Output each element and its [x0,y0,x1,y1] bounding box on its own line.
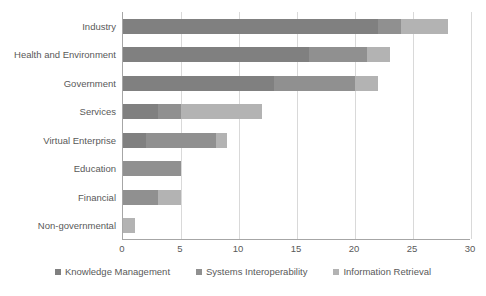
category-label: Industry [0,21,116,32]
stacked-bar-chart: IndustryHealth and EnvironmentGovernment… [0,0,486,296]
bar-segment [355,76,378,91]
bar-track [123,19,448,34]
bar-segment [123,76,274,91]
bar-segment [123,133,146,148]
bar-track [123,218,135,233]
value-tick-label: 20 [349,243,360,255]
plot-area [122,12,470,240]
bar-row [123,183,470,212]
bar-track [123,76,378,91]
bar-segment [378,19,401,34]
category-label: Non-governmental [0,220,116,231]
legend-item[interactable]: Knowledge Management [55,266,170,278]
category-label: Financial [0,192,116,203]
chart-legend: Knowledge ManagementSystems Interoperabi… [0,266,486,278]
bar-segment [123,19,378,34]
value-tick-label: 30 [465,243,476,255]
category-axis-labels: IndustryHealth and EnvironmentGovernment… [0,12,116,240]
bar-segment [123,218,135,233]
bar-track [123,133,227,148]
value-tick-label: 10 [233,243,244,255]
category-label: Virtual Enterprise [0,135,116,146]
bar-segment [309,47,367,62]
category-label: Health and Environment [0,49,116,60]
bar-row [123,69,470,98]
legend-label: Information Retrieval [343,266,431,278]
bar-segment [158,104,181,119]
value-tick-label: 5 [177,243,182,255]
legend-label: Knowledge Management [65,266,170,278]
bar-track [123,161,181,176]
bar-segment [216,133,228,148]
bar-segment [401,19,447,34]
bar-segment [367,47,390,62]
bar-series-group [123,12,470,239]
bar-row [123,98,470,127]
legend-swatch-icon [55,269,61,275]
bar-segment [123,47,309,62]
value-tick-label: 0 [119,243,124,255]
bar-segment [146,133,216,148]
legend-item[interactable]: Information Retrieval [333,266,431,278]
legend-item[interactable]: Systems Interoperability [196,266,307,278]
category-label: Services [0,106,116,117]
bar-row [123,126,470,155]
value-axis-labels: 051015202530 [122,243,470,257]
bar-track [123,190,181,205]
bar-segment [123,190,158,205]
legend-swatch-icon [333,269,339,275]
bar-row [123,41,470,70]
bar-segment [123,104,158,119]
bar-track [123,47,390,62]
gridline-30 [471,12,472,239]
bar-segment [158,190,181,205]
bar-row [123,155,470,184]
value-tick-label: 15 [291,243,302,255]
bar-track [123,104,262,119]
bar-row [123,212,470,241]
category-label: Government [0,78,116,89]
bar-segment [274,76,355,91]
legend-swatch-icon [196,269,202,275]
bar-segment [123,161,181,176]
category-label: Education [0,163,116,174]
value-tick-label: 25 [407,243,418,255]
legend-label: Systems Interoperability [206,266,307,278]
bar-segment [181,104,262,119]
bar-row [123,12,470,41]
